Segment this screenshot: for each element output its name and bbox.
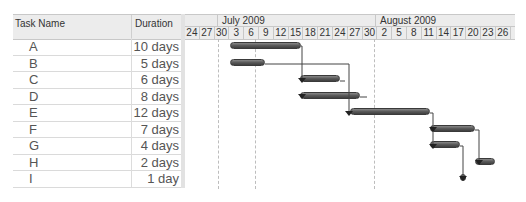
- cell-divider: [131, 170, 132, 187]
- duration-cell[interactable]: 12 days: [133, 105, 179, 120]
- table-header: Task Name Duration: [13, 14, 181, 40]
- table-row[interactable]: I1 day: [13, 170, 181, 188]
- cell-divider: [131, 55, 132, 72]
- duration-cell[interactable]: 1 day: [147, 171, 179, 186]
- task-name-cell[interactable]: D: [29, 89, 38, 104]
- task-name-cell[interactable]: B: [29, 56, 38, 71]
- cell-divider: [131, 104, 132, 121]
- cell-divider: [131, 88, 132, 105]
- cell-divider: [131, 38, 132, 55]
- task-name-cell[interactable]: G: [29, 138, 39, 153]
- table-row[interactable]: C6 days: [13, 71, 181, 89]
- task-name-cell[interactable]: I: [29, 171, 33, 186]
- table-row[interactable]: H2 days: [13, 154, 181, 172]
- duration-cell[interactable]: 4 days: [141, 138, 179, 153]
- header-divider[interactable]: [131, 15, 132, 39]
- task-name-cell[interactable]: F: [29, 122, 37, 137]
- cell-divider: [131, 154, 132, 171]
- duration-cell[interactable]: 10 days: [133, 39, 179, 54]
- task-name-cell[interactable]: H: [29, 155, 38, 170]
- header-task-name[interactable]: Task Name: [15, 18, 65, 29]
- cell-divider: [131, 137, 132, 154]
- duration-cell[interactable]: 5 days: [141, 56, 179, 71]
- table-row[interactable]: F7 days: [13, 121, 181, 139]
- cell-divider: [131, 121, 132, 138]
- task-name-cell[interactable]: A: [29, 39, 38, 54]
- table-row[interactable]: A10 days: [13, 38, 181, 56]
- task-name-cell[interactable]: C: [29, 72, 38, 87]
- table-row[interactable]: G4 days: [13, 137, 181, 155]
- header-duration[interactable]: Duration: [135, 18, 173, 29]
- table-row[interactable]: B5 days: [13, 55, 181, 73]
- table-row[interactable]: D8 days: [13, 88, 181, 106]
- duration-cell[interactable]: 2 days: [141, 155, 179, 170]
- table-row[interactable]: E12 days: [13, 104, 181, 122]
- duration-cell[interactable]: 6 days: [141, 72, 179, 87]
- duration-cell[interactable]: 8 days: [141, 89, 179, 104]
- task-name-cell[interactable]: E: [29, 105, 38, 120]
- gantt-chart: July 2009 August 2009 242730369121518212…: [185, 14, 515, 189]
- cell-divider: [131, 71, 132, 88]
- dependency-links: [185, 14, 515, 189]
- duration-cell[interactable]: 7 days: [141, 122, 179, 137]
